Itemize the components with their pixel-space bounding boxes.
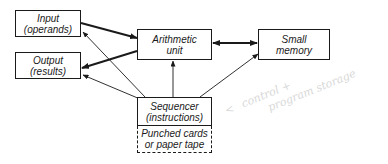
memory-sublabel: memory xyxy=(276,45,312,56)
arrow-sequencer-to-memory xyxy=(200,54,258,97)
punched-sublabel: or paper tape xyxy=(145,139,205,150)
arrow-input-to-arithmetic xyxy=(81,23,137,38)
sequencer-box: Sequencer (instructions) xyxy=(137,97,212,126)
input-box: Input (operands) xyxy=(15,10,81,37)
arithmetic-label: Arithmetic xyxy=(152,34,196,45)
punched-label: Punched cards xyxy=(141,128,208,139)
sequencer-label: Sequencer xyxy=(150,101,198,112)
input-label: Input xyxy=(37,13,59,24)
arithmetic-sublabel: unit xyxy=(166,45,182,56)
memory-label: Small xyxy=(281,34,306,45)
output-sublabel: (results) xyxy=(30,66,66,77)
output-label: Output xyxy=(33,55,63,66)
sequencer-sublabel: (instructions) xyxy=(146,112,203,123)
input-sublabel: (operands) xyxy=(24,24,72,35)
arithmetic-unit-box: Arithmetic unit xyxy=(137,29,212,60)
small-memory-box: Small memory xyxy=(258,29,330,60)
computer-architecture-diagram: Input (operands) Output (results) Arithm… xyxy=(0,0,388,164)
punched-cards-box: Punched cards or paper tape xyxy=(137,126,212,153)
output-box: Output (results) xyxy=(15,52,81,79)
arrow-sequencer-to-output xyxy=(83,75,140,99)
